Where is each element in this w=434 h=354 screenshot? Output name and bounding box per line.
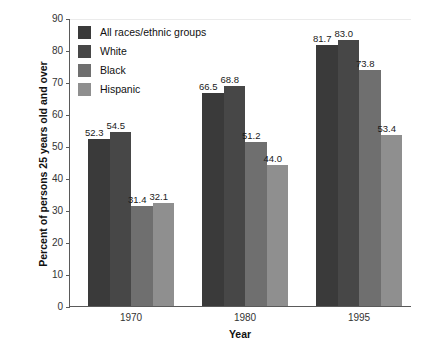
bar: 53.4 [381, 135, 403, 306]
y-tick-mark [66, 115, 70, 116]
y-tick-label: 20 [52, 236, 63, 250]
bar-value-label: 52.3 [85, 127, 104, 138]
legend-item: White [78, 42, 206, 60]
y-tick-mark [66, 211, 70, 212]
x-axis-tick-label: 1995 [348, 312, 370, 323]
y-tick-label: 70 [52, 76, 63, 90]
legend-label: All races/ethnic groups [100, 26, 206, 38]
y-tick-label: 60 [52, 108, 63, 122]
gridline-top [70, 19, 411, 20]
bar-chart: Percent of persons 25 years old and over… [0, 0, 434, 354]
legend-swatch-icon [78, 26, 91, 39]
y-tick-mark [66, 51, 70, 52]
y-tick-label: 80 [52, 44, 63, 58]
bar-value-label: 53.4 [378, 123, 397, 134]
bar: 52.3 [88, 139, 110, 306]
bar-value-label: 73.8 [356, 58, 375, 69]
y-tick-mark [66, 275, 70, 276]
chart-legend: All races/ethnic groups White Black Hisp… [78, 23, 206, 99]
bar-value-label: 83.0 [335, 28, 354, 39]
y-tick-mark [66, 179, 70, 180]
legend-label: White [100, 45, 127, 57]
y-tick-mark [66, 307, 70, 308]
bar: 83.0 [338, 40, 360, 306]
bar: 32.1 [153, 203, 175, 306]
bar-value-label: 54.5 [107, 120, 126, 131]
bar-value-label: 32.1 [150, 191, 169, 202]
bar-value-label: 68.8 [221, 74, 240, 85]
y-tick-label: 90 [52, 12, 63, 26]
y-tick-mark [66, 147, 70, 148]
bar: 54.5 [110, 132, 132, 306]
y-tick-label: 0 [57, 300, 63, 314]
y-tick-label: 30 [52, 204, 63, 218]
legend-swatch-icon [78, 64, 91, 77]
legend-item: All races/ethnic groups [78, 23, 206, 41]
bar-value-label: 51.2 [242, 130, 261, 141]
y-tick-mark [66, 243, 70, 244]
x-axis-tick-label: 1970 [120, 312, 142, 323]
legend-label: Black [100, 64, 126, 76]
bar: 81.7 [316, 45, 338, 306]
y-tick-label: 40 [52, 172, 63, 186]
x-axis-tick-label: 1980 [234, 312, 256, 323]
y-tick-mark [66, 83, 70, 84]
legend-swatch-icon [78, 45, 91, 58]
x-axis-title: Year [69, 328, 411, 340]
bar: 66.5 [202, 93, 224, 306]
bar-value-label: 31.4 [128, 194, 147, 205]
bar-value-label: 44.0 [264, 153, 283, 164]
y-tick-label: 10 [52, 268, 63, 282]
y-axis-title: Percent of persons 25 years old and over [37, 39, 49, 289]
legend-item: Hispanic [78, 80, 206, 98]
legend-label: Hispanic [100, 83, 140, 95]
legend-swatch-icon [78, 83, 91, 96]
bar-value-label: 81.7 [313, 33, 332, 44]
bar: 44.0 [267, 165, 289, 306]
y-tick-label: 50 [52, 140, 63, 154]
bar: 68.8 [224, 86, 246, 306]
y-tick-mark [66, 19, 70, 20]
bar: 51.2 [245, 142, 267, 306]
bar: 31.4 [131, 206, 153, 306]
legend-item: Black [78, 61, 206, 79]
bar: 73.8 [359, 70, 381, 306]
plot-area: 010203040506070809052.354.531.432.119706… [69, 19, 411, 307]
